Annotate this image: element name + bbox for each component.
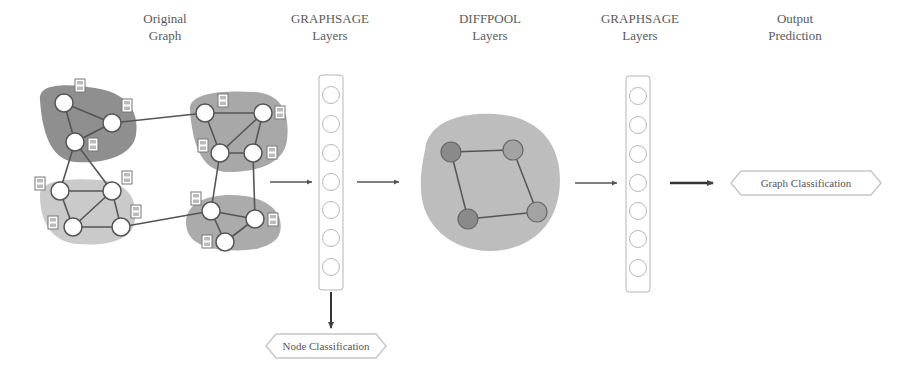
layer-unit	[630, 88, 647, 105]
graph-node	[55, 94, 73, 112]
layer-unit	[630, 117, 647, 134]
layer-unit	[630, 203, 647, 220]
graph-node	[246, 210, 264, 228]
layer-unit	[630, 175, 647, 192]
original-graph	[35, 79, 288, 251]
graph-node	[244, 144, 262, 162]
node-classification-label: Node Classification	[266, 334, 386, 358]
layer-unit	[323, 145, 340, 162]
layer-unit	[630, 260, 647, 277]
graph-classification-label: Graph Classification	[731, 171, 881, 195]
graph-node	[103, 182, 121, 200]
graph-classification-text: Graph Classification	[731, 171, 881, 195]
graph-node	[216, 233, 234, 251]
graph-node	[211, 144, 229, 162]
diffpool-pooled-graph	[421, 114, 560, 251]
layer-unit	[323, 230, 340, 247]
layer-unit	[323, 116, 340, 133]
graphsage-layer-block-2	[626, 76, 650, 292]
layer-unit	[323, 259, 340, 276]
layer-unit	[323, 87, 340, 104]
pooled-node	[527, 202, 547, 222]
pooled-node	[441, 142, 461, 162]
layer-unit	[323, 174, 340, 191]
graph-node	[51, 182, 69, 200]
graph-node	[254, 104, 272, 122]
pooled-node	[503, 140, 523, 160]
pooled-cluster	[421, 114, 560, 251]
layer-unit	[630, 231, 647, 248]
graph-node	[112, 218, 130, 236]
graph-node	[103, 114, 121, 132]
node-classification-text: Node Classification	[266, 334, 386, 358]
graphsage-layer-block-1	[319, 75, 343, 290]
graph-node	[202, 202, 220, 220]
graph-node	[66, 133, 84, 151]
graph-node	[64, 218, 82, 236]
layer-unit	[630, 146, 647, 163]
graph-node	[196, 104, 214, 122]
layer-unit	[323, 202, 340, 219]
pooled-node	[458, 209, 478, 229]
